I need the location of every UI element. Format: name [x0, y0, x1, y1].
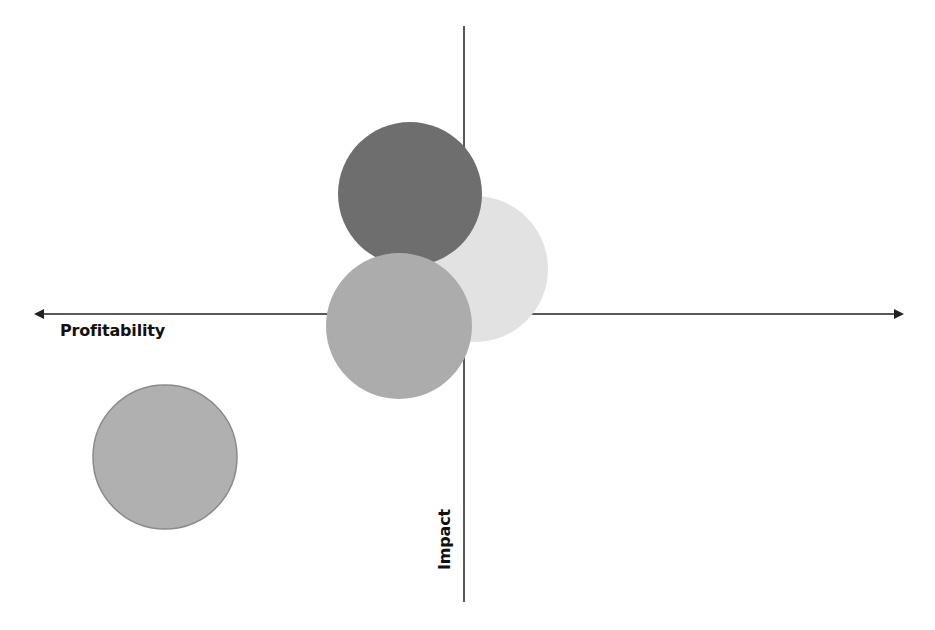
- bottom-left-bubble: [93, 385, 237, 529]
- dark-bubble: [338, 122, 482, 266]
- impact-axis-label: Impact: [435, 508, 454, 572]
- profitability-axis-label: Profitability: [60, 321, 165, 340]
- quadrant-diagram: [0, 0, 935, 630]
- medium-bubble: [326, 253, 472, 399]
